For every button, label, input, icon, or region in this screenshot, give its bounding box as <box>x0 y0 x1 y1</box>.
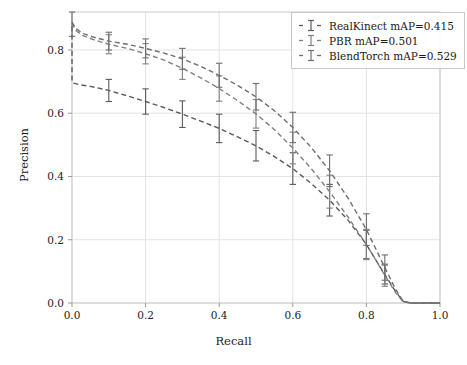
figure-root: Recall Precision 0.00.20.40.60.81.00.00.… <box>0 0 467 365</box>
x-tick-label: 0.4 <box>211 309 228 321</box>
y-tick-label: 0.6 <box>30 107 64 119</box>
legend-marker-icon <box>298 33 324 48</box>
legend-item[interactable]: RealKinect mAP=0.415 <box>298 18 457 33</box>
legend-marker-icon <box>298 48 324 63</box>
y-tick-label: 0.0 <box>30 297 64 309</box>
legend: RealKinect mAP=0.415PBR mAP=0.501BlendTo… <box>291 12 465 69</box>
y-tick-label: 0.4 <box>30 170 64 182</box>
legend-label: PBR mAP=0.501 <box>329 35 419 47</box>
x-tick-label: 1.0 <box>432 309 449 321</box>
y-tick-label: 0.8 <box>30 44 64 56</box>
x-tick-label: 0.6 <box>284 309 301 321</box>
y-tick-label: 0.2 <box>30 234 64 246</box>
legend-marker-icon <box>298 18 324 33</box>
x-tick-label: 0.0 <box>64 309 81 321</box>
x-axis-label: Recall <box>0 334 467 348</box>
x-tick-label: 0.2 <box>137 309 154 321</box>
legend-item[interactable]: BlendTorch mAP=0.529 <box>298 48 457 63</box>
legend-label: RealKinect mAP=0.415 <box>329 20 454 32</box>
legend-label: BlendTorch mAP=0.529 <box>329 50 457 62</box>
legend-item[interactable]: PBR mAP=0.501 <box>298 33 457 48</box>
y-axis-label: Precision <box>17 105 31 205</box>
x-tick-label: 0.8 <box>358 309 375 321</box>
